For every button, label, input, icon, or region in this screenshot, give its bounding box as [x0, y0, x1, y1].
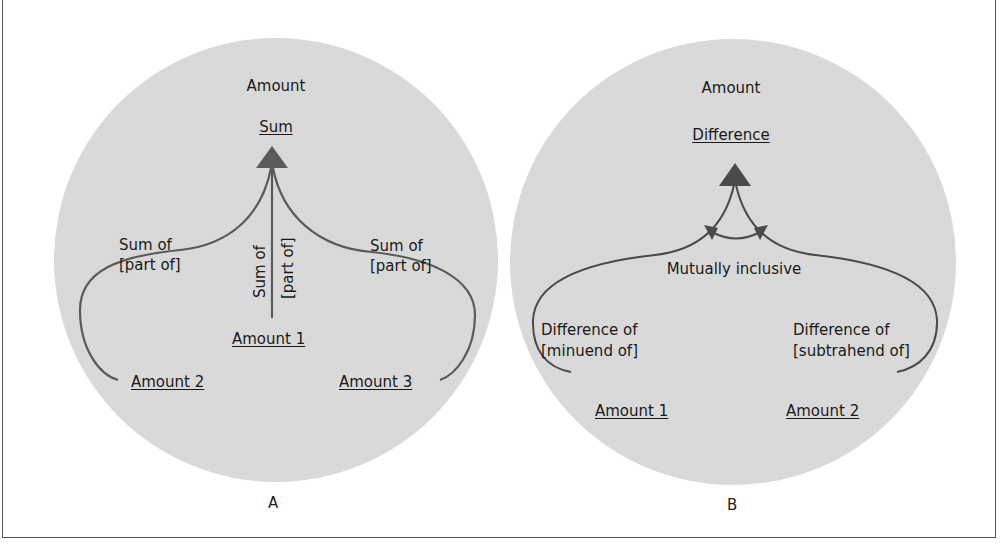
panel-b-left-relation-2: [minuend of]: [541, 342, 638, 360]
panel-b-input-2: Amount 2: [786, 402, 859, 420]
panel-a-left-relation-2: [part of]: [119, 256, 181, 274]
panel-b-right-relation-1: Difference of: [793, 321, 890, 339]
panel-b-label: B: [727, 496, 737, 514]
panel-b-input-1: Amount 1: [595, 402, 668, 420]
panel-b-result: Difference: [692, 126, 769, 144]
panel-a-center-relation-2: [part of]: [279, 237, 297, 299]
panel-b-right-relation-2: [subtrahend of]: [793, 342, 910, 360]
panel-a-label: A: [268, 494, 278, 512]
panel-a-right-relation-2: [part of]: [370, 257, 432, 275]
panel-a-result: Sum: [259, 118, 293, 136]
diagram-graphics: [0, 0, 1004, 558]
panel-b-title: Amount: [702, 79, 761, 97]
panel-a-left-relation-1: Sum of: [119, 236, 172, 254]
panel-a-input-2: Amount 2: [131, 373, 204, 391]
panel-a-input-3: Amount 3: [339, 373, 412, 391]
panel-a-input-1: Amount 1: [232, 330, 305, 348]
panel-a-right-relation-1: Sum of: [370, 237, 423, 255]
panel-a-center-relation-1: Sum of: [251, 245, 269, 298]
panel-a-title: Amount: [247, 77, 306, 95]
panel-b-middle-note: Mutually inclusive: [667, 260, 802, 278]
panel-b-left-relation-1: Difference of: [541, 321, 638, 339]
